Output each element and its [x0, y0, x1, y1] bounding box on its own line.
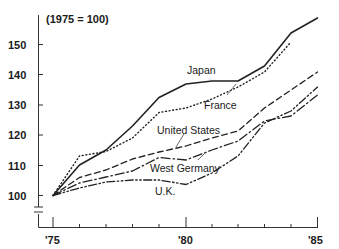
x-axis: [39, 217, 319, 228]
x-tick-85: '85: [308, 234, 323, 246]
base-year-annotation: (1975 = 100): [46, 13, 109, 25]
y-tick-140: 140: [8, 69, 26, 81]
france-leader-line: [227, 84, 236, 95]
y-tick-130: 130: [8, 99, 26, 111]
y-tick-150: 150: [8, 39, 26, 51]
line-chart: 150 140 130 120 110 100 '75 '80 '85 (197…: [0, 0, 339, 249]
y-tick-100: 100: [8, 190, 26, 202]
series-label-japan: Japan: [187, 64, 216, 76]
x-tick-75: '75: [45, 234, 60, 246]
series-uk-line: [53, 87, 318, 196]
y-tick-120: 120: [8, 129, 26, 141]
west-germany-leader-line: [198, 152, 206, 160]
y-tick-110: 110: [8, 160, 26, 172]
series-label-france: France: [204, 99, 237, 111]
y-axis: [34, 15, 43, 228]
x-tick-80: '80: [178, 234, 193, 246]
series-label-west-germany: West Germany: [150, 162, 221, 174]
series-label-uk: U.K.: [155, 185, 175, 197]
series-west-germany-line: [53, 95, 318, 196]
series-label-us: United States: [157, 124, 220, 136]
